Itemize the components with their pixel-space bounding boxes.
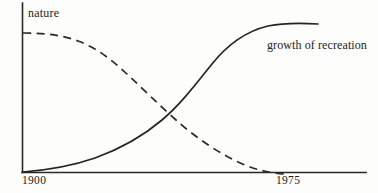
x-axis-tick-start: 1900 [22,174,46,186]
curve-nature [23,33,289,174]
line-chart [0,0,378,193]
series-label-recreation: growth of recreation [267,38,367,53]
figure-container: nature growth of recreation 1900 1975 [0,0,378,193]
x-axis-tick-end: 1975 [276,174,300,186]
series-label-nature: nature [28,6,59,21]
